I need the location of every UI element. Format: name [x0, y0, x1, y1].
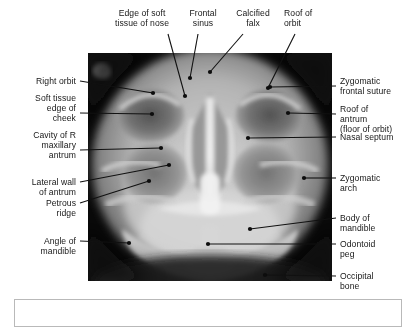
label-angle-of-mandible: Angle of mandible	[4, 236, 76, 256]
label-cavity-of-r-maxillary-antrum: Cavity of R maxillary antrum	[4, 130, 76, 161]
label-petrous-ridge: Petrous ridge	[4, 198, 76, 218]
label-nasal-septum: Nasal septum	[340, 132, 414, 142]
label-occipital-bone: Occipital bone	[340, 271, 414, 291]
label-roof-of-antrum: Roof of antrum (floor of orbit)	[340, 104, 414, 135]
label-edge-of-soft-tissue-of-nose: Edge of soft tissue of nose	[104, 8, 180, 28]
label-body-of-mandible: Body of mandible	[340, 213, 414, 233]
label-lateral-wall-of-antrum: Lateral wall of antrum	[4, 177, 76, 197]
label-zygomatic-arch: Zygomatic arch	[340, 173, 414, 193]
label-right-orbit: Right orbit	[4, 76, 76, 86]
label-zygomatic-frontal-suture: Zygomatic frontal suture	[340, 76, 414, 96]
label-soft-tissue-edge-of-cheek: Soft tissue edge of cheek	[4, 93, 76, 124]
label-roof-of-orbit: Roof of orbit	[284, 8, 332, 28]
label-calcified-falx: Calcified falx	[228, 8, 278, 28]
label-odontoid-peg: Odontoid peg	[340, 239, 414, 259]
label-frontal-sinus: Frontal sinus	[182, 8, 224, 28]
caption-box	[14, 299, 402, 327]
radiograph-image	[88, 53, 332, 281]
